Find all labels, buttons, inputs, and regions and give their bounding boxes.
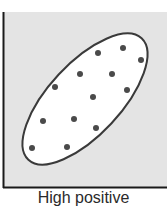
data-point bbox=[52, 84, 58, 90]
data-point bbox=[77, 71, 83, 77]
data-point bbox=[109, 71, 115, 77]
data-point bbox=[95, 50, 101, 56]
data-point bbox=[90, 94, 96, 100]
data-point bbox=[64, 144, 70, 150]
data-point bbox=[71, 116, 77, 122]
data-point bbox=[93, 125, 99, 131]
data-point bbox=[120, 45, 126, 51]
chart-caption: High positive bbox=[0, 189, 167, 207]
data-point bbox=[40, 118, 46, 124]
data-point bbox=[138, 57, 144, 63]
data-point bbox=[29, 145, 35, 151]
scatter-plot bbox=[0, 0, 167, 190]
data-point bbox=[124, 87, 130, 93]
